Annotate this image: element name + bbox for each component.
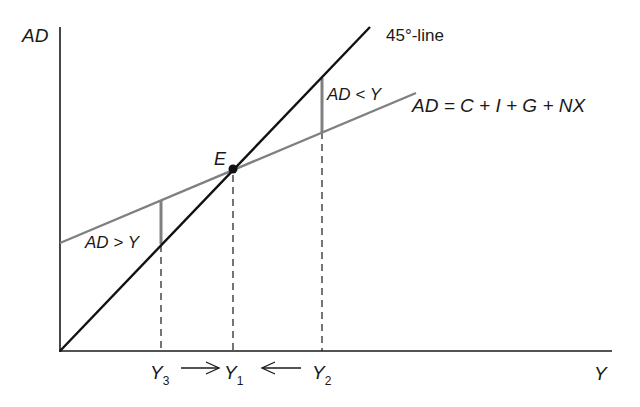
arrow-right-icon: [181, 362, 219, 374]
equilibrium-label: E: [214, 150, 226, 168]
ad-line: [60, 93, 416, 243]
ad-equation-label: AD = C + I + G + NX: [412, 96, 585, 115]
forty-five-line: [60, 27, 370, 351]
ad-less-y-label: AD < Y: [327, 86, 381, 103]
ad-greater-y-label: AD > Y: [85, 234, 139, 251]
y-axis-label: AD: [22, 26, 48, 45]
tick-y3: Y3: [150, 363, 169, 382]
x-axis-label: Y: [594, 364, 607, 383]
keynesian-cross-diagram: [0, 0, 640, 407]
forty-five-line-label: 45°-line: [386, 27, 444, 44]
arrow-left-icon: [262, 362, 301, 374]
equilibrium-point: [229, 165, 238, 174]
tick-y2: Y2: [312, 363, 331, 382]
tick-y1: Y1: [224, 363, 243, 382]
